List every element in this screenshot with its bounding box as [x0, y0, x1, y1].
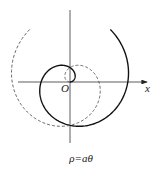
spiral-solid-curve: [40, 29, 129, 126]
equation-caption: ρ=aθ: [0, 152, 162, 164]
origin-label: O: [61, 82, 69, 94]
spiral-dashed-curve: [11, 29, 100, 126]
x-axis-label: x: [145, 82, 150, 94]
spiral-diagram: [0, 0, 162, 175]
